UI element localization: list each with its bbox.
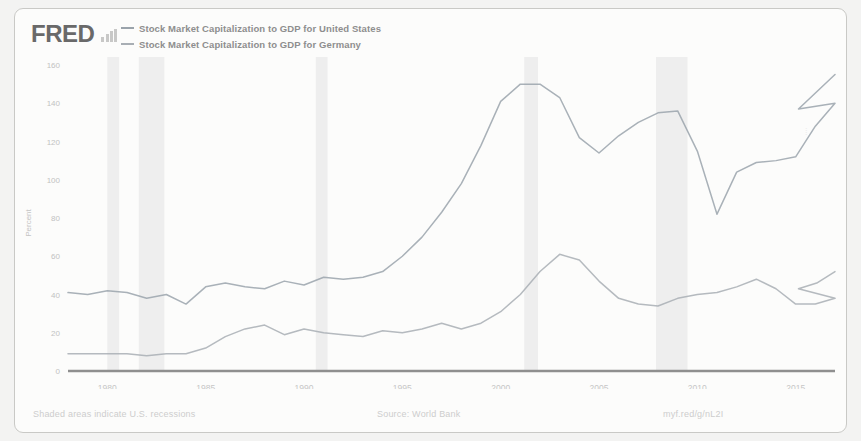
recession-band — [316, 57, 328, 371]
x-axis-ticks: 19801985199019952000200520102015 — [98, 383, 806, 389]
short-url-link[interactable]: myf.red/g/nL2I — [663, 409, 723, 419]
screenshot-page: FRED Stock Market Capitalization to GDP … — [0, 0, 861, 441]
x-tick-label: 2000 — [491, 383, 510, 389]
legend-swatch-germany — [121, 43, 134, 45]
x-tick-label: 2015 — [786, 383, 805, 389]
x-tick-label: 1980 — [98, 383, 117, 389]
legend-label-germany: Stock Market Capitalization to GDP for G… — [139, 39, 361, 50]
x-tick-label: 1990 — [295, 383, 314, 389]
source-note: Source: World Bank — [377, 409, 460, 419]
fred-logo: FRED — [31, 20, 94, 48]
chart-header: FRED Stock Market Capitalization to GDP … — [15, 9, 846, 53]
recession-note: Shaded areas indicate U.S. recessions — [33, 409, 196, 419]
x-tick-label: 2005 — [590, 383, 609, 389]
legend-label-united-states: Stock Market Capitalization to GDP for U… — [139, 23, 381, 34]
x-tick-label: 2010 — [688, 383, 707, 389]
recession-band — [107, 57, 119, 371]
chart-legend: Stock Market Capitalization to GDP for U… — [121, 21, 381, 53]
y-tick-label: 120 — [47, 138, 61, 147]
series-line-united-states — [68, 75, 835, 305]
y-tick-label: 80 — [51, 214, 60, 223]
chart-plot-area: 020406080100120140160 198019851990199520… — [15, 53, 847, 389]
legend-swatch-united-states — [121, 27, 134, 29]
chart-footer: Shaded areas indicate U.S. recessions So… — [15, 409, 847, 425]
y-tick-label: 160 — [47, 61, 61, 70]
y-tick-label: 140 — [47, 99, 61, 108]
recession-band — [139, 57, 165, 371]
x-tick-label: 1995 — [393, 383, 412, 389]
line-chart-svg: 020406080100120140160 198019851990199520… — [15, 53, 847, 389]
y-axis-title: Percent — [24, 208, 33, 236]
y-tick-label: 20 — [51, 329, 60, 338]
series-line-germany — [68, 254, 835, 355]
bar-chart-icon — [101, 29, 117, 42]
recession-band — [656, 57, 687, 371]
y-axis-ticks: 020406080100120140160 — [47, 61, 61, 376]
y-tick-label: 0 — [56, 367, 61, 376]
y-tick-label: 40 — [51, 291, 60, 300]
x-tick-label: 1985 — [196, 383, 215, 389]
data-series — [68, 75, 835, 356]
y-tick-label: 100 — [47, 176, 61, 185]
legend-item-united-states: Stock Market Capitalization to GDP for U… — [121, 21, 381, 35]
scan-artifact: ⁞ — [805, 127, 819, 143]
fred-graph-card: FRED Stock Market Capitalization to GDP … — [14, 8, 847, 433]
recession-bands — [107, 57, 687, 371]
recession-band — [524, 57, 538, 371]
legend-item-germany: Stock Market Capitalization to GDP for G… — [121, 37, 381, 51]
y-tick-label: 60 — [51, 252, 60, 261]
